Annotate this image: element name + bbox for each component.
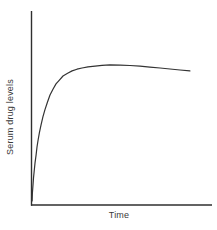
pharmacokinetics-chart: Serum drug levels Time — [0, 0, 217, 230]
x-axis-label: Time — [89, 210, 149, 221]
plot-canvas — [0, 0, 217, 230]
serum-curve — [32, 65, 190, 201]
y-axis-label: Serum drug levels — [4, 67, 16, 167]
